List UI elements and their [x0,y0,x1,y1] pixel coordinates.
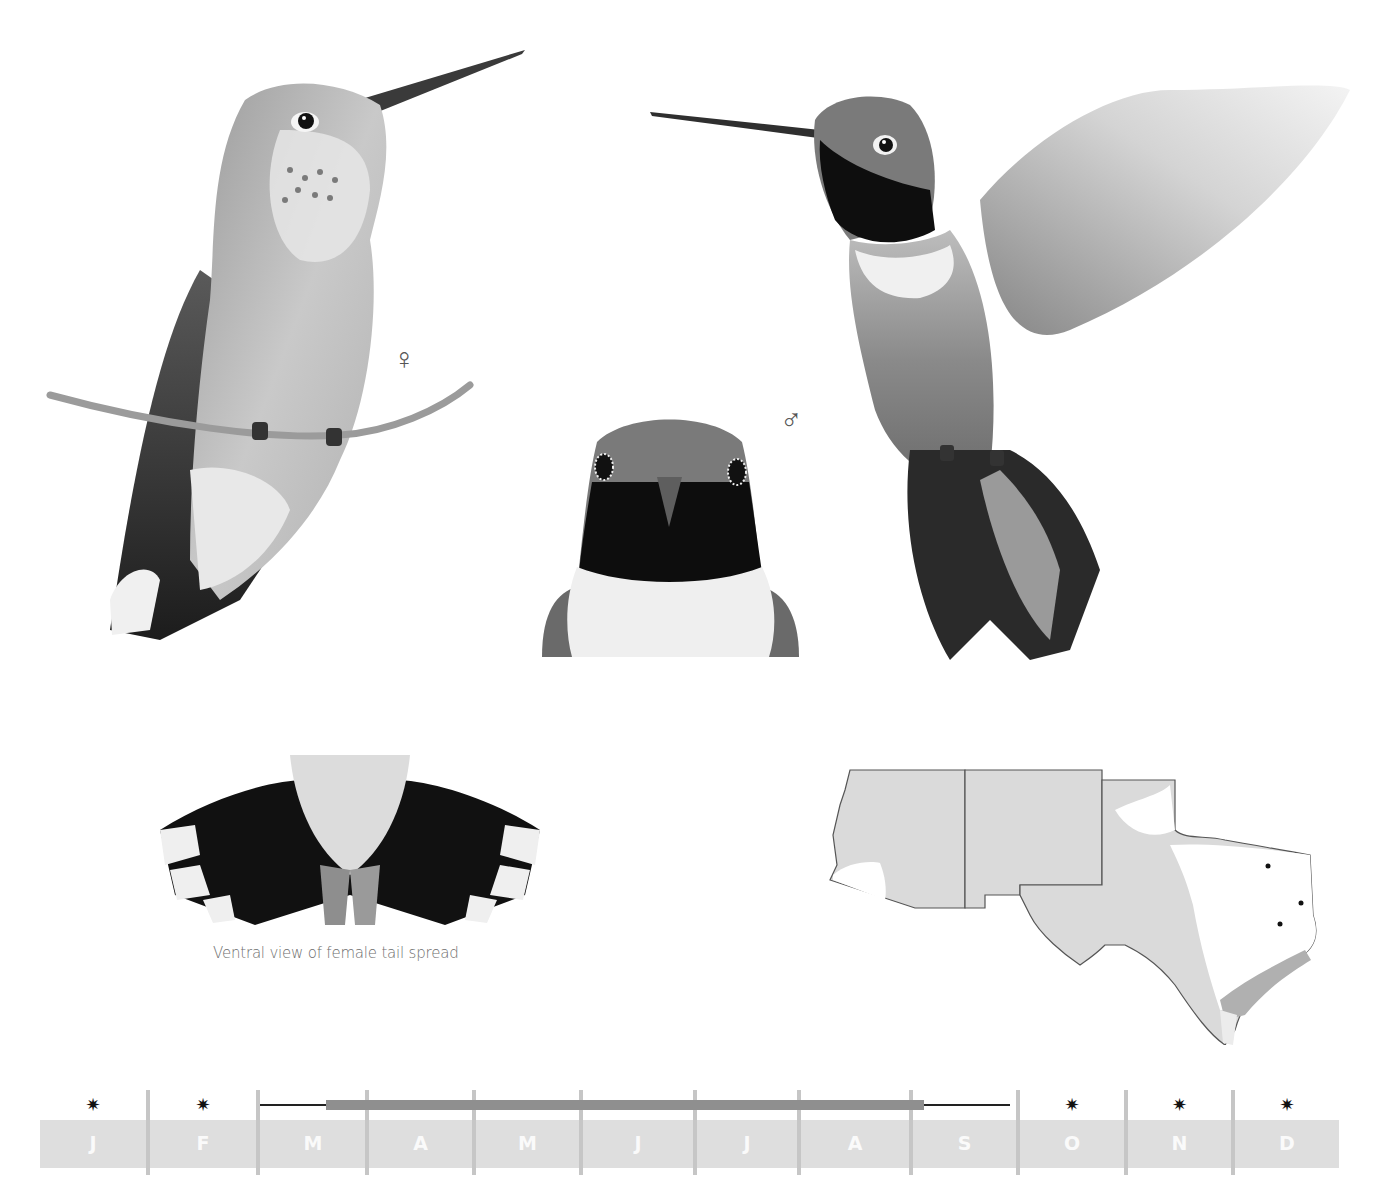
record-dot [1266,864,1271,869]
arizona-region [830,770,965,908]
range-map [825,765,1345,1045]
month-feb: ✷ F [150,1090,256,1175]
tail-caption: Ventral view of female tail spread [213,944,533,962]
range-map-icon [825,765,1345,1045]
month-nov: ✷ N [1128,1090,1231,1175]
rare-star-icon: ✷ [1128,1096,1231,1114]
female-perched-illustration [40,40,540,640]
rare-star-icon: ✷ [40,1096,146,1114]
record-dot [1278,922,1283,927]
phenology-bar: ✷ J ✷ F M A M J J A S ✷ O ✷ N [40,1090,1339,1175]
male-head-icon [537,412,802,662]
record-dot [1299,901,1304,906]
common-occurrence-bar [326,1100,924,1110]
month-oct: ✷ O [1020,1090,1124,1175]
month-jan: ✷ J [40,1090,146,1175]
month-sep: S [913,1090,1016,1175]
rare-star-icon: ✷ [1020,1096,1124,1114]
female-symbol: ♀ [393,344,416,374]
female-hummingbird-icon [40,40,540,640]
month-dec: ✷ D [1235,1090,1339,1175]
male-head-front-illustration [537,412,802,662]
female-tail-illustration [155,755,545,930]
uncommon-line-fall [924,1104,1010,1106]
rare-star-icon: ✷ [1235,1096,1339,1114]
uncommon-line-spring [260,1104,326,1106]
tail-spread-icon [155,755,545,930]
rare-star-icon: ✷ [150,1096,256,1114]
